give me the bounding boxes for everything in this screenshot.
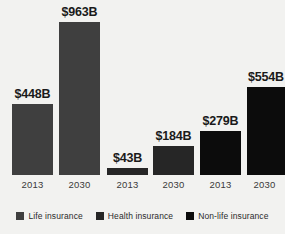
bar-nonlife-2030[interactable] xyxy=(247,87,285,175)
legend-item-life-insurance[interactable]: Life insurance xyxy=(16,211,82,221)
bar-group-0: $448B xyxy=(12,0,53,175)
bar-value-label: $554B xyxy=(248,71,284,84)
bar-health-2013[interactable] xyxy=(107,168,148,175)
x-tick-1: 2030 xyxy=(59,179,100,190)
bar-nonlife-2013[interactable] xyxy=(200,131,241,175)
chart-legend: Life insurance Health insurance Non-life… xyxy=(0,206,285,226)
x-tick-3: 2030 xyxy=(153,179,194,190)
legend-swatch-icon xyxy=(96,212,104,220)
bar-value-label: $448B xyxy=(15,88,51,101)
bar-value-label: $963B xyxy=(62,6,98,19)
bar-value-label: $184B xyxy=(156,130,192,143)
bar-group-5: $554B xyxy=(247,0,285,175)
x-tick-4: 2013 xyxy=(200,179,241,190)
bar-life-2013[interactable] xyxy=(12,104,53,175)
bar-group-3: $184B xyxy=(153,0,194,175)
x-tick-2: 2013 xyxy=(107,179,148,190)
bar-group-1: $963B xyxy=(59,0,100,175)
legend-swatch-icon xyxy=(186,212,194,220)
bar-group-2: $43B xyxy=(107,0,148,175)
legend-item-label: Health insurance xyxy=(108,211,173,221)
bar-life-2030[interactable] xyxy=(59,22,100,175)
bar-health-2030[interactable] xyxy=(153,146,194,175)
x-axis: 2013 2030 2013 2030 2013 2030 xyxy=(0,178,285,196)
x-tick-5: 2030 xyxy=(244,179,285,190)
x-tick-0: 2013 xyxy=(12,179,53,190)
legend-item-health-insurance[interactable]: Health insurance xyxy=(96,211,173,221)
bar-value-label: $43B xyxy=(113,152,142,165)
legend-item-label: Non-life insurance xyxy=(198,211,268,221)
legend-item-label: Life insurance xyxy=(28,211,82,221)
legend-item-non-life-insurance[interactable]: Non-life insurance xyxy=(186,211,268,221)
bar-value-label: $279B xyxy=(203,115,239,128)
bar-chart: $448B $963B $43B $184B $279B $554B 2013 … xyxy=(0,0,285,234)
plot-area: $448B $963B $43B $184B $279B $554B xyxy=(0,0,285,178)
legend-swatch-icon xyxy=(16,212,24,220)
bar-group-4: $279B xyxy=(200,0,241,175)
